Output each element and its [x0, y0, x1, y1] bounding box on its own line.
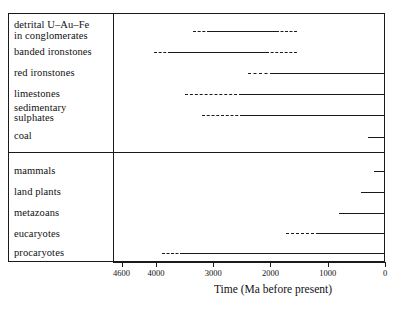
row-label-mammals: mammals	[14, 165, 56, 176]
row-label-banded-ironstones: banded ironstones	[14, 46, 92, 57]
bar-segment-solid	[210, 31, 276, 32]
x-tick-label-1000: 1000	[319, 268, 336, 278]
bar-segment-dashed	[162, 253, 184, 254]
bar-segment-dashed	[154, 52, 171, 53]
x-tick-2000	[270, 262, 271, 267]
row-label-red-ironstones: red ironstones	[14, 67, 75, 78]
bar-segment-dashed	[193, 31, 210, 32]
x-tick-3000	[213, 262, 214, 267]
plot-area	[113, 13, 385, 262]
x-tick-label-4600: 4600	[113, 268, 130, 278]
bar-segment-dashed	[185, 94, 242, 95]
x-axis-title: Time (Ma before present)	[0, 283, 414, 295]
bar-segment-dashed	[266, 52, 296, 53]
row-label-coal: coal	[14, 130, 32, 141]
bar-segment-solid	[361, 192, 385, 193]
x-axis-line	[113, 262, 385, 263]
bar-segment-dashed	[248, 73, 274, 74]
bar-segment-solid	[374, 171, 385, 172]
row-label-sedimentary-line2: sulphates	[14, 113, 54, 124]
x-tick-label-0: 0	[383, 268, 387, 278]
bar-segment-dashed	[276, 31, 297, 32]
x-tick-0	[385, 262, 386, 267]
bar-segment-solid	[368, 137, 385, 138]
geologic-timeline-chart: detrital U–Au–Fe in conglomerates banded…	[0, 0, 414, 309]
row-label-column: detrital U–Au–Fe in conglomerates banded…	[8, 13, 113, 262]
x-tick-label-3000: 3000	[205, 268, 222, 278]
bar-segment-solid	[183, 253, 385, 254]
row-label-procaryotes: procaryotes	[14, 247, 64, 258]
x-tick-label-2000: 2000	[262, 268, 279, 278]
row-label-metazoans: metazoans	[14, 207, 59, 218]
bar-segment-solid	[319, 233, 385, 234]
row-label-eucaryotes: eucaryotes	[14, 228, 60, 239]
row-label-limestones: limestones	[14, 88, 60, 99]
x-tick-1000	[328, 262, 329, 267]
bar-segment-solid	[243, 115, 385, 116]
bar-segment-solid	[339, 213, 385, 214]
x-tick-label-4000: 4000	[147, 268, 164, 278]
x-tick-4000	[156, 262, 157, 267]
row-label-land-plants: land plants	[14, 186, 61, 197]
row-label-detrital-line1: detrital U–Au–Fe	[14, 20, 89, 31]
bar-segment-solid	[273, 73, 385, 74]
bar-segment-dashed	[286, 233, 319, 234]
x-tick-4600	[122, 262, 123, 267]
x-axis-title-text: Time (Ma before present)	[82, 283, 332, 295]
bar-segment-solid	[171, 52, 267, 53]
bar-segment-solid	[242, 94, 385, 95]
bar-segment-dashed	[202, 115, 243, 116]
row-label-detrital-line2: in conglomerates	[14, 31, 88, 42]
